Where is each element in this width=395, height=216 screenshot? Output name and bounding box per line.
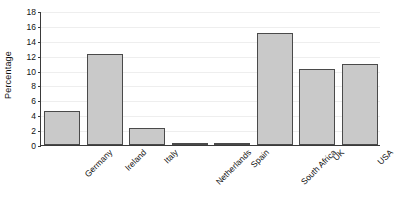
x-axis-category-label: USA <box>376 148 394 166</box>
x-axis-category-label: Spain <box>250 148 271 169</box>
bar <box>342 64 378 145</box>
bar-series <box>41 12 380 145</box>
y-axis-tick-labels: 024681012141618 <box>16 12 38 146</box>
bar <box>257 33 293 145</box>
y-axis-tick-label: 18 <box>27 8 36 17</box>
bar <box>299 69 335 145</box>
y-axis-tick-label: 6 <box>31 97 36 106</box>
y-axis-tick-mark <box>38 146 41 147</box>
bar <box>172 143 208 145</box>
y-axis-title-text: Percentage <box>3 51 13 99</box>
y-axis-tick-label: 8 <box>31 82 36 91</box>
bar <box>44 111 80 145</box>
y-axis-tick-label: 10 <box>27 67 36 76</box>
x-axis-category-label: Germany <box>83 148 114 179</box>
x-axis-category-label: Ireland <box>123 148 147 172</box>
y-axis-tick-label: 4 <box>31 112 36 121</box>
y-axis-tick-label: 0 <box>31 142 36 151</box>
y-axis-tick-label: 16 <box>27 23 36 32</box>
x-axis-category-label: Italy <box>163 148 180 165</box>
y-axis-tick-label: 2 <box>31 127 36 136</box>
plot-area <box>40 12 380 146</box>
bar <box>87 54 123 145</box>
bar <box>214 143 250 145</box>
y-axis-title: Percentage <box>0 0 16 150</box>
x-axis-category-labels: GermanyIrelandItalyNetherlandsSpainSouth… <box>40 148 380 216</box>
x-axis-category-label: Netherlands <box>214 148 252 186</box>
y-axis-tick-label: 14 <box>27 38 36 47</box>
y-axis-tick-label: 12 <box>27 52 36 61</box>
bar <box>129 128 165 145</box>
